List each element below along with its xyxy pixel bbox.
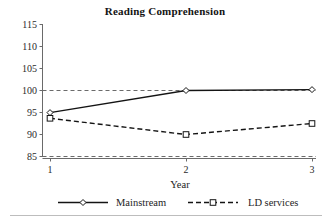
legend-label-mainstream: Mainstream bbox=[116, 197, 166, 208]
series-line-mainstream bbox=[50, 90, 312, 113]
legend-swatch-mainstream bbox=[58, 200, 108, 206]
series-line-ld-services bbox=[50, 118, 312, 134]
legend-label-ld-services: LD services bbox=[248, 197, 298, 208]
y-tick-label-100: 100 bbox=[22, 85, 37, 96]
legend-swatch-ld-services bbox=[188, 200, 238, 206]
y-tick-label-90: 90 bbox=[27, 129, 37, 140]
y-tick-label-95: 95 bbox=[27, 107, 37, 118]
plot-area: 115 110 105 100 95 90 85 bbox=[0, 0, 330, 219]
legend: Mainstream LD services bbox=[58, 197, 298, 208]
y-tick-label-105: 105 bbox=[22, 63, 37, 74]
y-tick-label-115: 115 bbox=[22, 19, 37, 30]
y-tick-label-110: 110 bbox=[22, 41, 37, 52]
x-tick-label-3: 3 bbox=[310, 164, 315, 175]
x-axis-title: Year bbox=[170, 179, 190, 190]
x-tick-label-1: 1 bbox=[48, 164, 53, 175]
y-tick-label-85: 85 bbox=[27, 151, 37, 162]
chart-page: Reading Comprehension 115 110 105 100 95… bbox=[0, 0, 330, 219]
x-tick-label-2: 2 bbox=[184, 164, 189, 175]
